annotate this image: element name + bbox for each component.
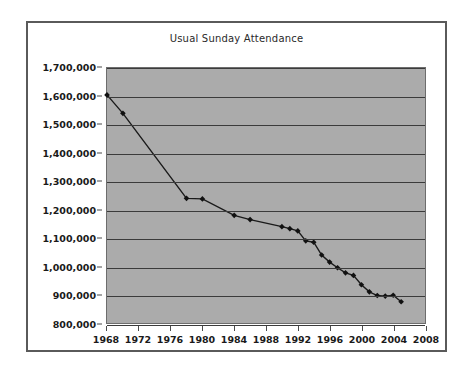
x-tick-label: 1980 [189, 334, 215, 345]
gridline [107, 97, 425, 98]
y-tick-mark [97, 266, 102, 267]
data-point-marker [279, 224, 285, 230]
x-tick-mark [106, 326, 107, 331]
x-tick-label: 2008 [413, 334, 439, 345]
data-point-marker [200, 196, 206, 202]
y-tick-mark [97, 181, 102, 182]
x-tick-label: 1976 [157, 334, 183, 345]
y-tick-label: 1,300,000 [43, 176, 97, 187]
gridline [107, 154, 425, 155]
y-tick-label: 1,600,000 [43, 90, 97, 101]
x-tick-mark [138, 326, 139, 331]
line-series [107, 68, 425, 323]
x-tick-label: 1968 [93, 334, 119, 345]
y-tick-mark [97, 295, 102, 296]
x-tick-mark [426, 326, 427, 331]
y-tick-label: 1,700,000 [43, 62, 97, 73]
gridline [107, 68, 425, 69]
y-tick-label: 900,000 [53, 290, 96, 301]
x-tick-mark [202, 326, 203, 331]
y-tick-mark [97, 324, 102, 325]
chart-title: Usual Sunday Attendance [28, 33, 445, 44]
plot-area [106, 67, 426, 324]
x-tick-mark [362, 326, 363, 331]
gridline [107, 239, 425, 240]
x-tick-mark [298, 326, 299, 331]
y-tick-mark [97, 152, 102, 153]
x-tick-mark [170, 326, 171, 331]
y-tick-label: 800,000 [53, 319, 96, 330]
x-tick-label: 2000 [349, 334, 375, 345]
x-tick-label: 2004 [381, 334, 407, 345]
x-tick-label: 1984 [221, 334, 247, 345]
y-tick-mark [97, 67, 102, 68]
y-tick-label: 1,200,000 [43, 204, 97, 215]
data-point-marker [231, 213, 237, 219]
gridline [107, 268, 425, 269]
x-tick-mark [266, 326, 267, 331]
gridline [107, 182, 425, 183]
gridline [107, 125, 425, 126]
y-tick-label: 1,100,000 [43, 233, 97, 244]
data-point-marker [287, 226, 293, 232]
data-point-marker [247, 217, 253, 223]
y-tick-mark [97, 95, 102, 96]
x-tick-mark [330, 326, 331, 331]
x-tick-mark [394, 326, 395, 331]
y-tick-mark [97, 238, 102, 239]
gridline [107, 296, 425, 297]
y-tick-label: 1,400,000 [43, 147, 97, 158]
y-tick-label: 1,500,000 [43, 119, 97, 130]
x-tick-label: 1972 [125, 334, 151, 345]
x-tick-mark [234, 326, 235, 331]
x-tick-label: 1992 [285, 334, 311, 345]
x-tick-label: 1988 [253, 334, 279, 345]
x-tick-label: 1996 [317, 334, 343, 345]
y-tick-mark [97, 209, 102, 210]
gridline [107, 211, 425, 212]
x-axis: 1968197219761980198419881992199620002004… [106, 326, 426, 350]
chart-frame: Usual Sunday Attendance 800,000900,0001,… [26, 21, 447, 352]
y-axis: 800,000900,0001,000,0001,100,0001,200,00… [28, 67, 102, 324]
y-tick-mark [97, 124, 102, 125]
y-tick-label: 1,000,000 [43, 261, 97, 272]
